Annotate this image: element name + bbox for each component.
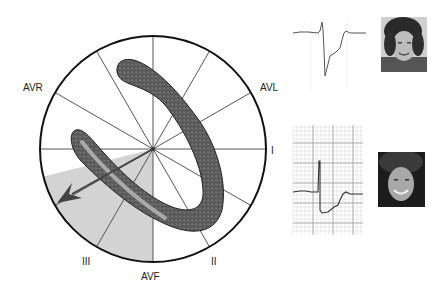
ecg-top: [293, 20, 366, 90]
lead-label-ii: II: [211, 257, 217, 267]
lead-label-iii: III: [82, 257, 90, 267]
hexaxial-diagram: [0, 0, 447, 295]
portrait-1-icon: [381, 17, 427, 72]
ecg-bottom: [293, 125, 363, 235]
lead-label-i: I: [271, 146, 274, 156]
hexaxial-figure: AVR AVL I III AVF II: [0, 0, 447, 295]
lead-label-avf: AVF: [141, 272, 160, 282]
axis-center: [151, 147, 155, 151]
portrait-2-icon: [378, 152, 425, 207]
lead-label-avr: AVR: [23, 83, 43, 93]
photo-woman-1: [381, 17, 427, 72]
photo-woman-2: [378, 152, 425, 207]
ecg-top-trace: [293, 22, 366, 76]
lead-label-avl: AVL: [260, 83, 278, 93]
